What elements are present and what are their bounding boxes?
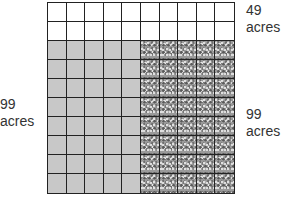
grid-cell: [197, 117, 216, 136]
grid-cell: [160, 22, 179, 41]
grid-cell: [178, 22, 197, 41]
grid-cell: [141, 79, 160, 98]
grid-cell: [122, 98, 141, 117]
grid-cell: [141, 98, 160, 117]
label-right: 99 acres: [246, 106, 280, 140]
grid-cell: [141, 136, 160, 155]
label-top-right: 49 acres: [246, 2, 280, 36]
grid-cell: [215, 22, 234, 41]
grid-cell: [104, 3, 123, 22]
grid-cell: [160, 60, 179, 79]
grid-cell: [215, 41, 234, 60]
grid-cell: [48, 117, 67, 136]
grid-cell: [215, 174, 234, 193]
label-top-right-unit: acres: [246, 19, 280, 36]
grid-cell: [160, 136, 179, 155]
label-right-unit: acres: [246, 123, 280, 140]
grid-cell: [48, 98, 67, 117]
grid-cell: [85, 98, 104, 117]
grid-cell: [67, 136, 86, 155]
grid-cell: [197, 60, 216, 79]
label-left-value: 99: [0, 96, 34, 113]
grid-cell: [215, 79, 234, 98]
grid-cell: [104, 136, 123, 155]
grid-cell: [178, 174, 197, 193]
grid-cell: [85, 155, 104, 174]
grid-cell: [48, 22, 67, 41]
grid-cell: [178, 41, 197, 60]
area-grid: [47, 2, 235, 194]
label-right-value: 99: [246, 106, 280, 123]
grid-cell: [178, 3, 197, 22]
grid-cell: [67, 41, 86, 60]
grid-cell: [48, 41, 67, 60]
grid-cell: [48, 155, 67, 174]
grid-cell: [178, 79, 197, 98]
grid-cell: [104, 155, 123, 174]
grid-cell: [122, 22, 141, 41]
grid-cell: [215, 136, 234, 155]
grid-cell: [104, 174, 123, 193]
grid-cell: [67, 3, 86, 22]
label-left-unit: acres: [0, 113, 34, 130]
grid-cell: [67, 174, 86, 193]
grid-cell: [104, 22, 123, 41]
grid-cell: [141, 3, 160, 22]
grid-cell: [104, 79, 123, 98]
grid-cell: [67, 22, 86, 41]
grid-cell: [215, 3, 234, 22]
grid-cell: [141, 60, 160, 79]
grid-cell: [122, 41, 141, 60]
grid-cell: [197, 22, 216, 41]
grid-cell: [48, 3, 67, 22]
grid-cell: [85, 174, 104, 193]
grid-cell: [197, 98, 216, 117]
grid-cell: [85, 60, 104, 79]
grid-cell: [48, 60, 67, 79]
grid-cell: [48, 136, 67, 155]
grid-cell: [67, 117, 86, 136]
grid-cell: [160, 155, 179, 174]
grid-cell: [197, 3, 216, 22]
grid-cell: [160, 174, 179, 193]
grid-cell: [67, 98, 86, 117]
grid-cell: [141, 41, 160, 60]
grid-cell: [67, 79, 86, 98]
grid-cell: [122, 117, 141, 136]
grid-cell: [160, 3, 179, 22]
label-left: 99 acres: [0, 96, 34, 130]
grid-cell: [160, 41, 179, 60]
grid-cell: [85, 41, 104, 60]
grid-cell: [215, 155, 234, 174]
grid-cell: [178, 155, 197, 174]
grid-cell: [160, 79, 179, 98]
grid-cell: [197, 79, 216, 98]
grid-cell: [197, 155, 216, 174]
grid-cell: [85, 136, 104, 155]
grid-cell: [85, 3, 104, 22]
grid-cell: [197, 174, 216, 193]
grid-cell: [48, 79, 67, 98]
grid-cell: [215, 98, 234, 117]
grid-cell: [141, 22, 160, 41]
grid-cell: [85, 22, 104, 41]
grid-cell: [48, 174, 67, 193]
grid-cell: [178, 60, 197, 79]
grid-cell: [122, 60, 141, 79]
grid-cell: [215, 60, 234, 79]
grid-cell: [178, 98, 197, 117]
grid-cell: [141, 174, 160, 193]
grid-cell: [122, 174, 141, 193]
grid-cell: [67, 60, 86, 79]
grid-cell: [141, 117, 160, 136]
grid-cell: [197, 136, 216, 155]
grid-cell: [104, 41, 123, 60]
grid-cell: [122, 3, 141, 22]
grid-cell: [85, 117, 104, 136]
grid-cell: [122, 79, 141, 98]
grid-cell: [104, 117, 123, 136]
label-top-right-value: 49: [246, 2, 280, 19]
grid-cell: [160, 98, 179, 117]
grid-cell: [104, 60, 123, 79]
grid-cell: [178, 117, 197, 136]
